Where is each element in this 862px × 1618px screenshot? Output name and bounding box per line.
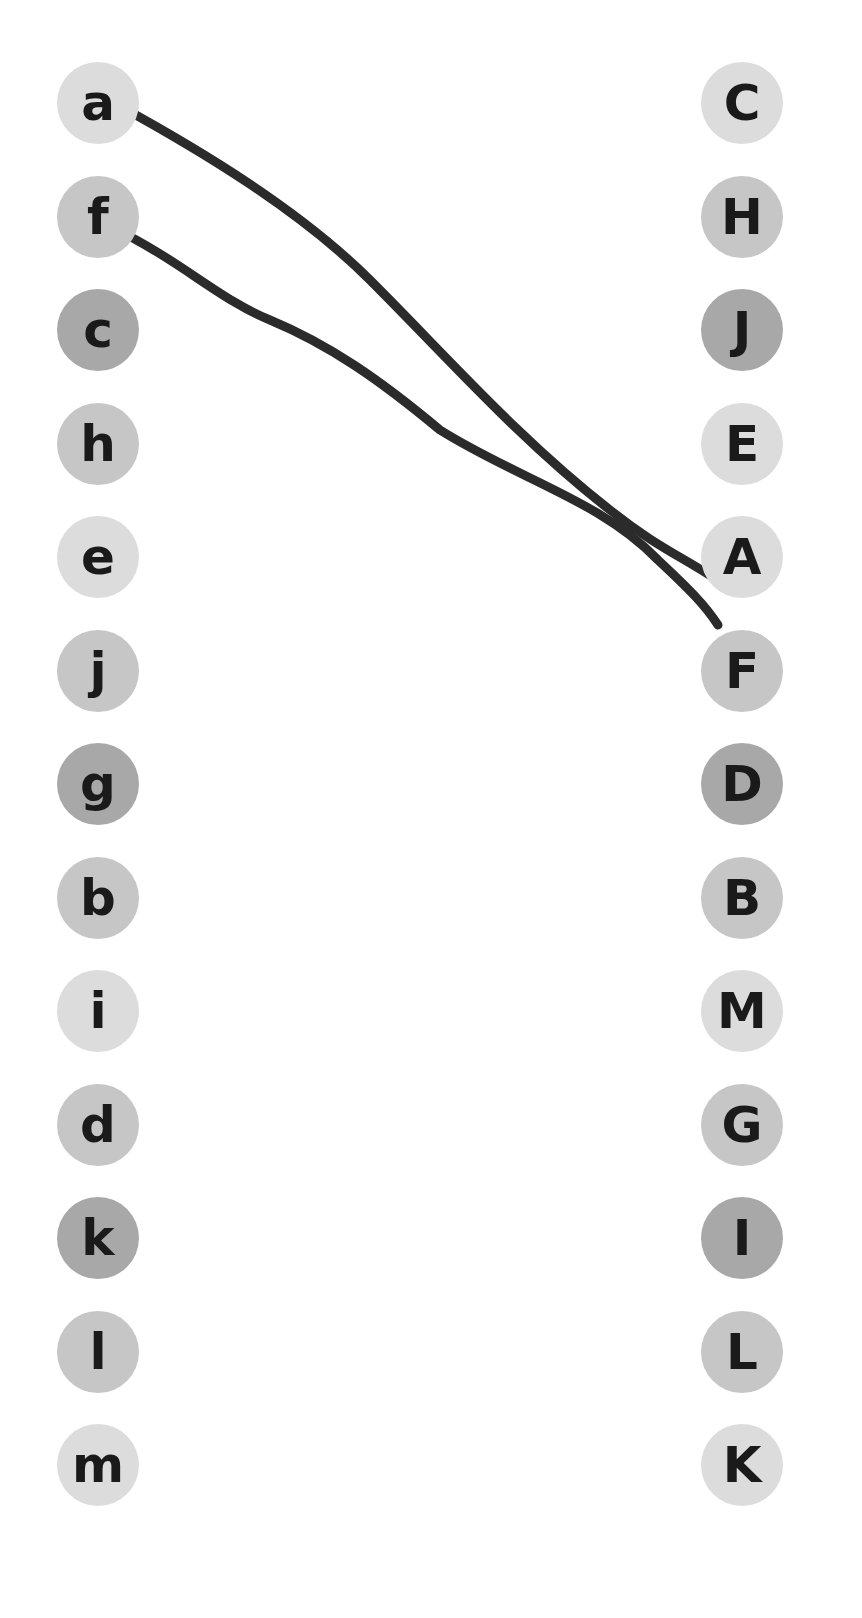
letter-label: L <box>726 1327 758 1377</box>
letter-node-left-a[interactable]: a <box>57 62 139 144</box>
letter-node-right-F[interactable]: F <box>701 630 783 712</box>
letter-node-right-J[interactable]: J <box>701 289 783 371</box>
letter-node-right-A[interactable]: A <box>701 516 783 598</box>
letter-node-right-G[interactable]: G <box>701 1084 783 1166</box>
letter-node-right-B[interactable]: B <box>701 857 783 939</box>
letter-node-left-i[interactable]: i <box>57 970 139 1052</box>
connection-line-a-A <box>116 104 732 590</box>
letter-node-right-M[interactable]: M <box>701 970 783 1052</box>
left-column-lowercase: afchejgbidklm <box>53 0 143 1618</box>
letter-node-right-L[interactable]: L <box>701 1311 783 1393</box>
letter-node-left-h[interactable]: h <box>57 403 139 485</box>
letter-label: b <box>80 873 116 923</box>
letter-node-left-g[interactable]: g <box>57 743 139 825</box>
letter-node-right-I[interactable]: I <box>701 1197 783 1279</box>
letter-node-right-E[interactable]: E <box>701 403 783 485</box>
letter-node-right-H[interactable]: H <box>701 176 783 258</box>
letter-node-left-j[interactable]: j <box>57 630 139 712</box>
letter-label: h <box>80 419 116 469</box>
letter-label: j <box>89 646 106 696</box>
letter-label: H <box>721 192 763 242</box>
letter-node-left-d[interactable]: d <box>57 1084 139 1166</box>
letter-label: e <box>81 532 115 582</box>
letter-label: K <box>723 1440 762 1490</box>
right-column-uppercase: CHJEAFDBMGILK <box>697 0 787 1618</box>
letter-label: I <box>733 1213 752 1263</box>
letter-node-left-e[interactable]: e <box>57 516 139 598</box>
letter-label: F <box>725 646 759 696</box>
letter-label: a <box>81 78 115 128</box>
letter-node-right-D[interactable]: D <box>701 743 783 825</box>
letter-label: E <box>725 419 759 469</box>
letter-node-right-C[interactable]: C <box>701 62 783 144</box>
letter-label: M <box>717 986 767 1036</box>
letter-node-left-m[interactable]: m <box>57 1424 139 1506</box>
letter-node-left-f[interactable]: f <box>57 176 139 258</box>
letter-node-left-k[interactable]: k <box>57 1197 139 1279</box>
letter-label: B <box>723 873 761 923</box>
letter-label: d <box>80 1100 116 1150</box>
letter-node-left-b[interactable]: b <box>57 857 139 939</box>
letter-label: G <box>721 1100 762 1150</box>
letter-label: A <box>723 532 762 582</box>
letter-label: k <box>81 1213 114 1263</box>
letter-label: g <box>80 759 116 809</box>
letter-node-right-K[interactable]: K <box>701 1424 783 1506</box>
letter-label: J <box>733 305 752 355</box>
letter-label: f <box>87 192 109 242</box>
connection-line-f-F <box>113 228 718 625</box>
letter-node-left-l[interactable]: l <box>57 1311 139 1393</box>
letter-label: l <box>89 1327 106 1377</box>
letter-label: D <box>721 759 763 809</box>
letter-node-left-c[interactable]: c <box>57 289 139 371</box>
letter-label: i <box>89 986 106 1036</box>
letter-label: C <box>724 78 761 128</box>
letter-label: c <box>83 305 113 355</box>
letter-label: m <box>72 1440 124 1490</box>
